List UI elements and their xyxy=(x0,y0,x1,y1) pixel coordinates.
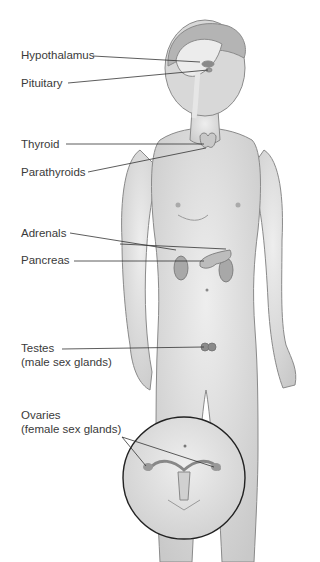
label-parathyroids: Parathyroids xyxy=(21,166,86,179)
left-kidney xyxy=(174,256,188,280)
head xyxy=(165,20,245,118)
label-testes-sub: (male sex glands) xyxy=(21,356,112,369)
label-ovaries-sub: (female sex glands) xyxy=(21,423,121,436)
label-pancreas: Pancreas xyxy=(21,254,70,267)
label-hypothalamus: Hypothalamus xyxy=(21,49,95,62)
label-pituitary: Pituitary xyxy=(21,77,63,90)
label-ovaries: Ovaries xyxy=(21,409,61,422)
testes-organ-right xyxy=(208,343,216,351)
label-testes: Testes xyxy=(21,342,54,355)
label-adrenals: Adrenals xyxy=(21,227,66,240)
label-thyroid: Thyroid xyxy=(21,138,59,151)
